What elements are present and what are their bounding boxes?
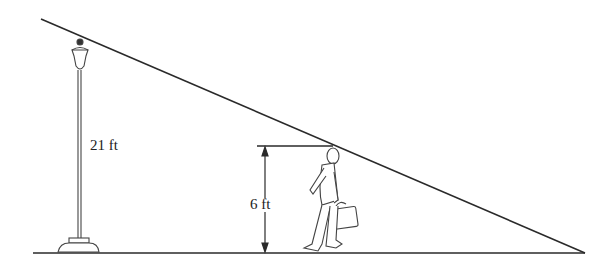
walking-person-icon [304,148,358,251]
lamp-height-label: 21 ft [90,137,118,154]
person-height-label: 6 ft [250,196,270,213]
diagram-canvas [0,0,605,272]
light-ray-line [41,19,585,253]
